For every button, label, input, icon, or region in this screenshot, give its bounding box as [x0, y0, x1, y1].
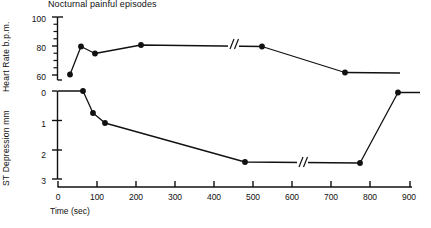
hr-data-line [70, 45, 400, 75]
hr-data-point [342, 70, 348, 76]
st-axis-group [52, 91, 62, 179]
st-data-point [80, 88, 86, 94]
x-axis-group [58, 181, 413, 187]
hr-data-point [92, 51, 98, 57]
hr-axis-break-icon [228, 39, 239, 49]
st-data-point [395, 90, 401, 96]
plot-svg [0, 0, 431, 228]
hr-data-point [67, 72, 73, 78]
st-data-line [58, 91, 420, 163]
st-data-point [102, 120, 108, 126]
hr-data-point [259, 44, 265, 50]
hr-data-point [78, 44, 84, 50]
st-data-point [357, 160, 363, 166]
hr-axis-group [52, 17, 63, 80]
figure-container: Nocturnal painful episodes Heart Rate b.… [0, 0, 431, 228]
st-data-point [242, 159, 248, 165]
st-axis-break-icon [297, 157, 308, 167]
hr-data-point [138, 42, 144, 48]
st-data-point [90, 110, 96, 116]
